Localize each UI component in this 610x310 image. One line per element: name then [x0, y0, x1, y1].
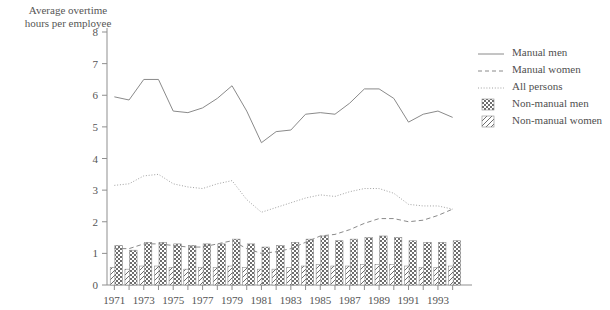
- y-tick-label: 5: [93, 121, 99, 133]
- bar-non-manual-men: [306, 239, 314, 285]
- chart-figure: Average overtime hours per employee 0123…: [0, 0, 610, 310]
- bar-non-manual-men: [174, 244, 182, 285]
- legend-item-all-persons[interactable]: All persons: [478, 78, 610, 95]
- diagonal-hatch-swatch-icon: [478, 114, 504, 127]
- y-tick-label: 1: [93, 247, 99, 259]
- y-tick-label: 4: [93, 153, 99, 165]
- x-tick-label: 1983: [280, 294, 303, 306]
- bar-non-manual-men: [247, 244, 255, 285]
- bar-non-manual-men: [380, 236, 388, 285]
- y-tick-label: 6: [93, 89, 99, 101]
- legend-item-manual-women[interactable]: Manual women: [478, 61, 610, 78]
- bar-non-manual-men: [188, 245, 196, 285]
- bar-non-manual-men: [350, 239, 358, 285]
- x-tick-label: 1975: [162, 294, 185, 306]
- lines: [114, 79, 452, 253]
- bar-non-manual-men: [291, 242, 299, 285]
- x-tick-label: 1977: [192, 294, 215, 306]
- x-tick-label: 1973: [133, 294, 156, 306]
- bar-non-manual-men: [321, 236, 329, 285]
- legend-label: Manual men: [512, 46, 567, 59]
- y-tick-label: 8: [93, 26, 99, 38]
- legend-label: Non-manual men: [512, 97, 589, 110]
- x-tick-label: 1981: [250, 294, 272, 306]
- legend-label: Non-manual women: [512, 114, 602, 127]
- bar-non-manual-men: [144, 242, 152, 285]
- x-tick-label: 1987: [339, 294, 362, 306]
- legend-item-non-manual-men[interactable]: Non-manual men: [478, 95, 610, 112]
- y-tick-label: 7: [93, 58, 99, 70]
- line-manual-men: [114, 79, 452, 142]
- line-all-persons: [114, 174, 452, 212]
- legend-label: Manual women: [512, 63, 581, 76]
- bar-non-manual-men: [115, 245, 123, 285]
- x-tick-label: 1971: [103, 294, 125, 306]
- bar-non-manual-men: [365, 238, 373, 285]
- x-tick-label: 1993: [427, 294, 450, 306]
- bar-non-manual-men: [130, 250, 138, 285]
- x-tick-label: 1989: [368, 294, 391, 306]
- checker-swatch-icon: [478, 97, 504, 110]
- bars: [110, 236, 460, 285]
- bar-non-manual-men: [409, 241, 417, 285]
- dashed-line-icon: [478, 63, 504, 76]
- y-tick-label: 2: [93, 216, 99, 228]
- y-tick-label: 3: [93, 184, 99, 196]
- legend-label: All persons: [512, 80, 562, 93]
- dotted-line-icon: [478, 80, 504, 93]
- chart-legend: Manual men Manual women All persons Non-…: [478, 44, 610, 129]
- bar-non-manual-men: [203, 244, 211, 285]
- bar-non-manual-men: [438, 242, 446, 285]
- bar-non-manual-men: [336, 241, 344, 285]
- legend-item-non-manual-women[interactable]: Non-manual women: [478, 112, 610, 129]
- bar-non-manual-men: [233, 239, 241, 285]
- x-tick-label: 1985: [309, 294, 332, 306]
- y-tick-label: 0: [93, 279, 99, 291]
- bar-non-manual-men: [159, 242, 167, 285]
- legend-item-manual-men[interactable]: Manual men: [478, 44, 610, 61]
- solid-line-icon: [478, 46, 504, 59]
- bar-non-manual-men: [394, 238, 402, 285]
- x-tick-label: 1979: [221, 294, 244, 306]
- bar-non-manual-men: [424, 242, 432, 285]
- bar-non-manual-men: [218, 244, 226, 285]
- x-tick-label: 1991: [398, 294, 420, 306]
- bar-non-manual-men: [453, 241, 461, 285]
